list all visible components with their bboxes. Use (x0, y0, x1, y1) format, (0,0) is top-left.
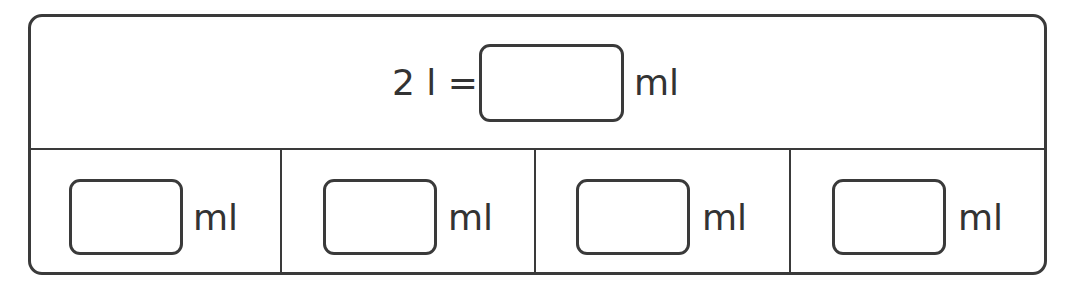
option-answer-box-3[interactable] (576, 179, 690, 255)
option-cell-4: ml (791, 150, 1044, 272)
question-unit: ml (634, 65, 679, 101)
option-unit: ml (958, 200, 1003, 236)
option-answer-box-1[interactable] (69, 179, 183, 255)
question-row: 2 l = ml (31, 17, 1044, 148)
question-answer-box[interactable] (479, 44, 624, 122)
option-unit: ml (193, 200, 238, 236)
option-answer-box-2[interactable] (323, 179, 437, 255)
option-answer-box-4[interactable] (832, 179, 946, 255)
worksheet-frame: 2 l = ml ml ml ml ml (28, 14, 1047, 275)
option-cell-3: ml (536, 150, 789, 272)
option-cell-1: ml (31, 150, 280, 272)
option-unit: ml (448, 200, 493, 236)
option-unit: ml (702, 200, 747, 236)
option-cell-2: ml (282, 150, 534, 272)
question-lhs: 2 l = (392, 65, 478, 101)
